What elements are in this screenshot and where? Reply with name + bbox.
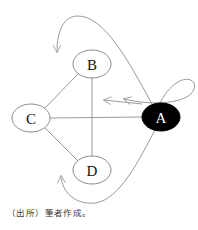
node-d-label: D — [87, 163, 98, 179]
diagram-figure: B C D A （出所）筆者作成。 — [0, 0, 198, 230]
figure-source-caption: （出所）筆者作成。 — [7, 207, 92, 219]
node-c[interactable]: C — [12, 104, 50, 132]
node-b-label: B — [87, 57, 97, 73]
node-b[interactable]: B — [73, 50, 111, 78]
node-c-label: C — [26, 111, 36, 127]
edge-c-to-a — [50, 117, 142, 118]
node-a[interactable]: A — [142, 103, 180, 131]
curved-edge-a-to-center — [124, 79, 194, 103]
edge-c-to-b — [45, 74, 78, 108]
network-diagram: B C D A — [0, 0, 198, 230]
edge-c-to-d — [45, 128, 78, 161]
node-d[interactable]: D — [73, 156, 111, 184]
curved-edge-center-arrow-tail — [104, 100, 142, 104]
node-a-label: A — [156, 110, 167, 126]
